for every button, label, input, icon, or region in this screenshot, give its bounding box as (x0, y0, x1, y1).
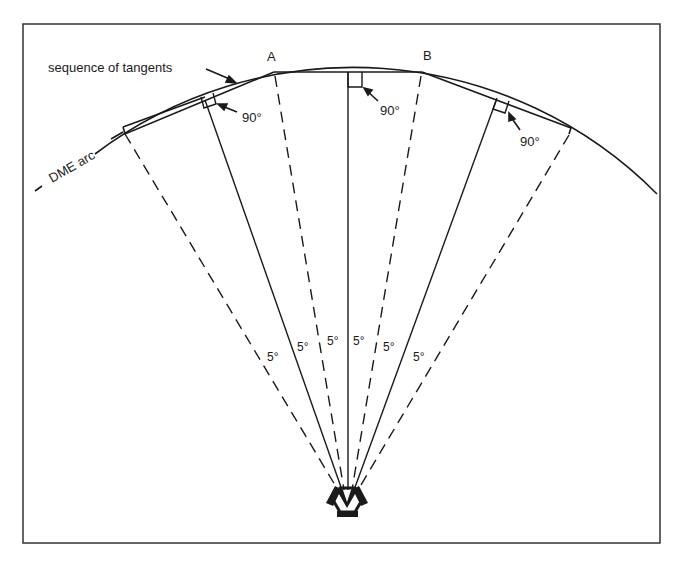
tangent-sequence (123, 72, 571, 134)
angle-label: 5° (297, 340, 309, 354)
right-angle-label-3: 90° (520, 134, 540, 149)
frame (23, 24, 660, 543)
vor-dme-station-icon (326, 486, 368, 517)
right-angle-label-1: 90° (242, 110, 262, 125)
dme-arc (95, 67, 657, 194)
angle-label: 5° (413, 350, 425, 364)
dme-arc-diagram: sequence of tangents A B 90° 90° 90° DME… (0, 0, 686, 563)
pointer-arrows (35, 69, 520, 191)
point-a-label: A (267, 49, 276, 64)
angle-label: 5° (327, 334, 339, 348)
tangents-label: sequence of tangents (48, 60, 173, 75)
angle-label: 5° (383, 340, 395, 354)
right-angle-label-2: 90° (380, 103, 400, 118)
angle-label: 5° (267, 350, 279, 364)
right-angle-markers (201, 72, 509, 113)
dme-arc-label: DME arc (46, 147, 98, 186)
dashed-radials (125, 76, 569, 490)
point-b-label: B (423, 48, 432, 63)
solid-radials (205, 72, 496, 490)
angle-label: 5° (353, 334, 365, 348)
